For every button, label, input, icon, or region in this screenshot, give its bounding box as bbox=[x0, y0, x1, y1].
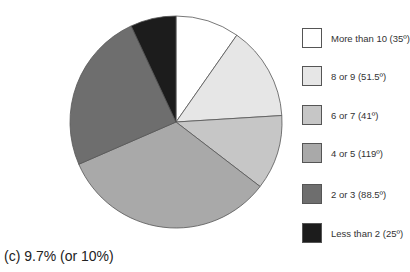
legend-item: 4 or 5 (119º) bbox=[302, 142, 383, 164]
legend-swatch bbox=[302, 105, 322, 125]
pie-chart bbox=[0, 0, 300, 245]
legend-item: Less than 2 (25º) bbox=[302, 222, 403, 244]
legend-swatch bbox=[302, 184, 322, 204]
legend-item: 2 or 3 (88.5º) bbox=[302, 183, 386, 205]
legend-swatch bbox=[302, 66, 322, 86]
legend-label: 6 or 7 (41º) bbox=[331, 110, 378, 121]
legend-swatch bbox=[302, 223, 322, 243]
legend-label: Less than 2 (25º) bbox=[331, 228, 403, 239]
legend-swatch bbox=[302, 28, 322, 48]
legend-label: 2 or 3 (88.5º) bbox=[331, 189, 386, 200]
legend-label: 4 or 5 (119º) bbox=[331, 148, 383, 159]
legend-item: More than 10 (35º) bbox=[302, 27, 410, 49]
legend-label: 8 or 9 (51.5º) bbox=[331, 71, 386, 82]
legend-item: 8 or 9 (51.5º) bbox=[302, 65, 386, 87]
legend-swatch bbox=[302, 143, 322, 163]
legend-label: More than 10 (35º) bbox=[331, 33, 410, 44]
legend-item: 6 or 7 (41º) bbox=[302, 104, 378, 126]
chart-caption: (c) 9.7% (or 10%) bbox=[4, 248, 114, 264]
